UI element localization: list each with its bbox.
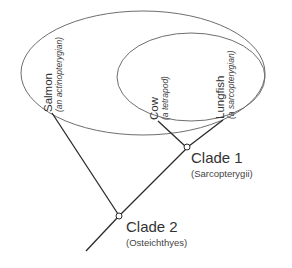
salmon-label: Salmon — [42, 73, 54, 112]
clade-2-to-clade-1-branch — [120, 149, 186, 215]
cow-label: Cow — [148, 96, 160, 120]
cow-description: (a tetrapod) — [160, 76, 170, 120]
clade-2-group: (Osteichthyes) — [126, 237, 187, 248]
root-branch — [86, 217, 118, 251]
lungfish-description: (a sarcopterygian) — [226, 50, 236, 119]
clade-1-node — [184, 144, 190, 150]
clade-1-group: (Sarcopterygii) — [191, 168, 253, 179]
salmon-description: (an actinopterygian) — [54, 37, 64, 112]
cow-label-group: Cow (a tetrapod) — [148, 76, 170, 120]
clade-1-label: Clade 1 — [191, 149, 243, 166]
salmon-label-group: Salmon (an actinopterygian) — [42, 37, 64, 112]
lungfish-label-group: Lungfish (a sarcopterygian) — [214, 50, 236, 119]
cow-branch — [158, 121, 185, 146]
lungfish-label: Lungfish — [214, 76, 226, 119]
lungfish-branch — [189, 120, 223, 146]
clade-1-ellipse — [117, 33, 265, 121]
clade-2-node — [116, 213, 122, 219]
cladogram: Salmon (an actinopterygian) Cow (a tetra… — [0, 0, 292, 268]
clade-2-label: Clade 2 — [126, 218, 178, 235]
